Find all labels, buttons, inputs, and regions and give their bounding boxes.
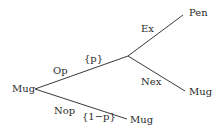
edge-label-nop: Nop xyxy=(54,105,75,116)
node-pen: Pen xyxy=(189,7,208,18)
edge-prob-1-minus-p: {1−p} xyxy=(82,111,116,122)
node-mug-nop: Mug xyxy=(130,114,154,125)
decision-tree-diagram: Mug Pen Mug Mug Op {p} Nop {1−p} Ex Nex xyxy=(0,0,219,134)
edge-prob-p: {p} xyxy=(84,53,103,64)
edge-op xyxy=(35,56,128,89)
edge-label-op: Op xyxy=(53,65,68,76)
node-mug-nex: Mug xyxy=(189,86,213,97)
node-root-mug: Mug xyxy=(12,83,36,94)
edge-label-ex: Ex xyxy=(141,23,154,34)
edge-ex xyxy=(128,15,183,56)
edge-label-nex: Nex xyxy=(141,76,162,87)
